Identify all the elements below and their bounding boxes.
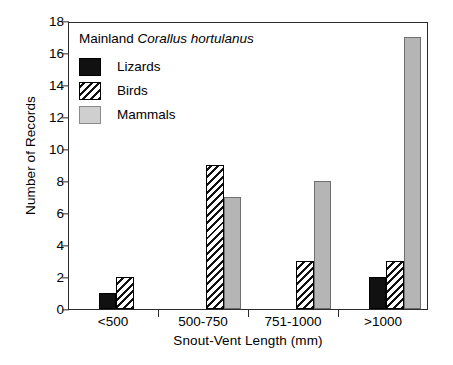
legend-swatch-lizards (79, 58, 101, 76)
legend-label-birds: Birds (117, 81, 148, 101)
y-tick-label: 0 (0, 302, 64, 318)
y-tick-label: 8 (0, 174, 64, 190)
bar-birds-2 (296, 261, 314, 309)
x-tick-label: 500-750 (158, 314, 248, 329)
bar-mammals-2 (314, 181, 332, 309)
y-tick-label: 2 (0, 270, 64, 286)
legend-swatch-mammals (79, 106, 101, 124)
bar-birds-1 (206, 165, 224, 309)
chart-title-prefix: Mainland (79, 31, 134, 46)
y-tick-label: 12 (0, 110, 64, 126)
bar-mammals-1 (224, 197, 242, 309)
chart-title: Mainland Corallus hortulanus (79, 31, 254, 46)
legend-label-mammals: Mammals (117, 105, 176, 125)
y-tick-label: 18 (0, 14, 64, 30)
y-tick-label: 14 (0, 78, 64, 94)
bar-birds-0 (116, 277, 134, 309)
x-tick-label: <500 (68, 314, 158, 329)
plot-area: Mainland Corallus hortulanus LizardsBird… (68, 22, 428, 310)
chart-title-species: Corallus hortulanus (138, 31, 254, 46)
legend-swatch-birds (79, 82, 101, 100)
x-tick-label: >1000 (338, 314, 428, 329)
bar-lizards-0 (99, 293, 117, 309)
y-tick-label: 6 (0, 206, 64, 222)
bar-birds-3 (386, 261, 404, 309)
y-tick-label: 4 (0, 238, 64, 254)
x-axis-label: Snout-Vent Length (mm) (68, 333, 428, 348)
y-tick-label: 10 (0, 142, 64, 158)
x-tick-label: 751-1000 (248, 314, 338, 329)
bar-lizards-3 (369, 277, 387, 309)
bar-chart-figure: Number of Records Snout-Vent Length (mm)… (0, 0, 453, 365)
bar-mammals-3 (404, 37, 422, 309)
y-tick-label: 16 (0, 46, 64, 62)
legend-label-lizards: Lizards (117, 57, 161, 77)
